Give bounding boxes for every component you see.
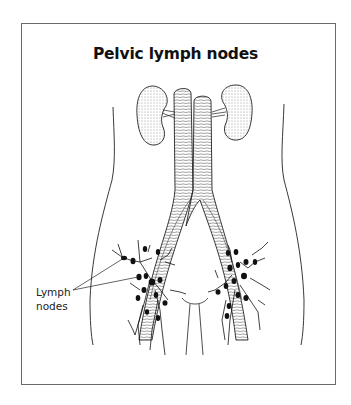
label-leader-lines	[73, 258, 138, 290]
pelvic-anatomy-illustration	[0, 0, 351, 405]
kidney-right	[222, 85, 252, 140]
kidney-left	[137, 86, 167, 145]
bladder	[182, 298, 208, 355]
label-line-2: nodes	[36, 299, 71, 313]
lymph-nodes-label: Lymph nodes	[36, 285, 71, 313]
label-line-1: Lymph	[36, 285, 71, 299]
